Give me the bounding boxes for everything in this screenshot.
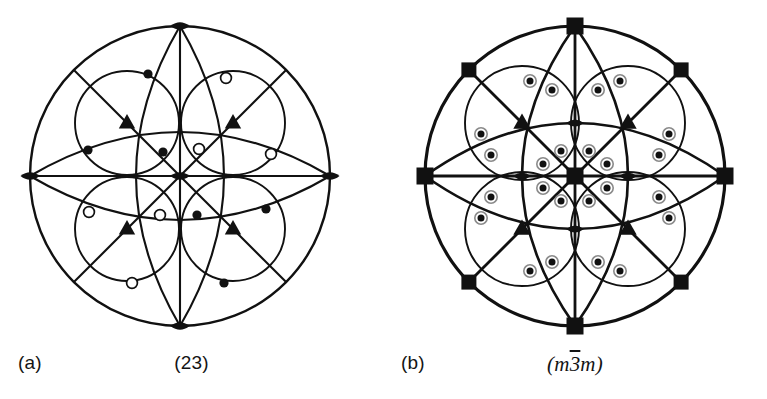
symbol-bar: 3 <box>570 352 581 376</box>
two-fold-axis-center-icon <box>171 172 190 180</box>
four-fold-axis-center-icon <box>567 168 584 185</box>
two-fold-axis-east-mid-icon <box>619 172 637 179</box>
symbol-suffix: m) <box>580 352 603 376</box>
stereographic-projection-figure: (a) (23) <box>0 0 767 399</box>
general-position-open <box>127 278 138 289</box>
general-position-filled <box>158 147 167 156</box>
general-position <box>601 182 613 194</box>
general-position <box>475 128 487 140</box>
general-position <box>485 191 497 203</box>
general-position <box>475 212 487 224</box>
point-group-symbol-a: (23) <box>0 352 383 374</box>
general-position <box>614 265 626 277</box>
general-position <box>592 84 604 96</box>
general-position-open <box>194 144 205 155</box>
general-position-filled <box>261 204 270 213</box>
general-position <box>583 195 595 207</box>
general-position <box>555 195 567 207</box>
two-fold-axis-south-mid-icon <box>566 225 584 232</box>
caption-a: (a) (23) <box>0 340 383 399</box>
panel-b: (b) (m3m) <box>383 0 767 399</box>
general-position <box>614 75 626 87</box>
general-position <box>485 149 497 161</box>
two-fold-axis-ne-primitive-icon <box>674 62 689 77</box>
two-fold-axis-north-icon <box>171 22 190 30</box>
general-position <box>537 158 549 170</box>
general-position <box>663 212 675 224</box>
general-position <box>524 75 536 87</box>
two-fold-axis-sw-primitive-icon <box>461 275 476 290</box>
general-position-open <box>84 207 95 218</box>
general-position <box>583 145 595 157</box>
general-position <box>546 256 558 268</box>
general-position <box>592 256 604 268</box>
stereogram-a <box>0 0 383 340</box>
general-position-filled <box>192 210 201 219</box>
four-fold-axis-north-icon <box>567 18 584 35</box>
two-fold-axis-south-icon <box>171 322 190 330</box>
general-position-filled <box>83 145 92 154</box>
general-position <box>555 145 567 157</box>
point-group-symbol-b: (m3m) <box>383 352 767 377</box>
general-position-open <box>221 73 232 84</box>
general-position <box>537 182 549 194</box>
two-fold-axis-north-mid-icon <box>566 119 584 126</box>
general-position-open <box>266 149 277 160</box>
general-position <box>653 149 665 161</box>
stereogram-a-canvas <box>0 0 383 340</box>
general-position <box>546 84 558 96</box>
general-position <box>601 158 613 170</box>
four-fold-axis-south-icon <box>567 318 584 335</box>
general-position <box>653 191 665 203</box>
general-position-filled <box>219 278 228 287</box>
general-position <box>524 265 536 277</box>
two-fold-axis-se-primitive-icon <box>674 275 689 290</box>
symbol-prefix: (m <box>547 352 570 376</box>
four-fold-axis-east-icon <box>717 168 734 185</box>
two-fold-axis-nw-primitive-icon <box>461 62 476 77</box>
stereogram-b-canvas <box>383 0 767 340</box>
four-fold-axis-west-icon <box>417 168 434 185</box>
general-position <box>663 128 675 140</box>
general-position-filled <box>143 69 152 78</box>
two-fold-axis-west-mid-icon <box>513 172 531 179</box>
general-positions-nw <box>83 69 167 156</box>
caption-b: (b) (m3m) <box>383 340 767 399</box>
general-position-open <box>155 210 166 221</box>
panel-a: (a) (23) <box>0 0 383 399</box>
stereogram-b <box>383 0 767 340</box>
